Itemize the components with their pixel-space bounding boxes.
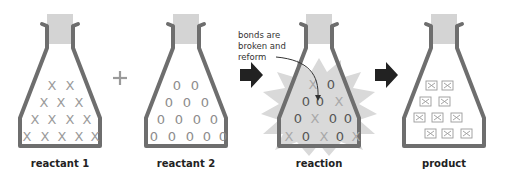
svg-text:0: 0 [193, 112, 201, 127]
svg-text:0: 0 [329, 111, 337, 126]
svg-text:0: 0 [336, 129, 344, 144]
svg-text:X: X [320, 129, 329, 144]
svg-text:X: X [41, 129, 50, 144]
svg-text:0: 0 [344, 111, 352, 126]
svg-text:X: X [40, 95, 49, 110]
annotation-line: broken and [238, 41, 308, 52]
svg-text:X: X [91, 129, 100, 144]
svg-text:0: 0 [173, 78, 181, 93]
svg-text:X: X [58, 129, 67, 144]
label-reactant-1: reactant 1 [15, 158, 105, 169]
svg-text:X: X [31, 112, 40, 127]
svg-text:X: X [75, 129, 84, 144]
svg-text:0: 0 [210, 112, 218, 127]
svg-text:X: X [48, 112, 57, 127]
svg-text:X: X [285, 129, 294, 144]
flask-product [404, 14, 484, 146]
svg-text:0: 0 [203, 129, 211, 144]
label-product: product [399, 158, 489, 169]
svg-text:0: 0 [327, 77, 335, 92]
svg-text:0: 0 [186, 129, 194, 144]
svg-text:0: 0 [219, 129, 227, 144]
svg-text:X: X [311, 111, 320, 126]
svg-text:X: X [309, 77, 318, 92]
plus-icon [113, 71, 127, 85]
svg-text:X: X [335, 94, 344, 109]
svg-text:0: 0 [294, 111, 302, 126]
svg-text:0: 0 [302, 129, 310, 144]
label-reaction: reaction [274, 158, 364, 169]
svg-text:X: X [66, 112, 75, 127]
svg-text:X: X [66, 78, 75, 93]
annotation-line: reform [238, 52, 308, 63]
chemical-reaction-diagram: XX XXX XXXX XXXXX 00 000 0000 00000 X0 0… [0, 0, 505, 182]
label-reactant-2: reactant 2 [141, 158, 231, 169]
svg-text:X: X [57, 95, 66, 110]
svg-text:0: 0 [165, 95, 173, 110]
svg-text:0: 0 [175, 112, 183, 127]
svg-text:X: X [48, 78, 57, 93]
svg-text:0: 0 [157, 112, 165, 127]
boxed-x-molecules [414, 81, 472, 138]
flask-reactant-2: 00 000 0000 00000 [146, 14, 227, 146]
annotation-line: bonds are [238, 30, 308, 41]
svg-text:0: 0 [191, 78, 199, 93]
svg-text:0: 0 [150, 129, 158, 144]
right-arrow-icon [240, 62, 263, 88]
right-arrow-icon [375, 62, 398, 88]
svg-text:X: X [83, 112, 92, 127]
svg-text:X: X [75, 95, 84, 110]
annotation-text: bonds are broken and reform [238, 30, 308, 63]
svg-text:X: X [23, 129, 32, 144]
svg-text:0: 0 [201, 95, 209, 110]
svg-text:0: 0 [183, 95, 191, 110]
flask-reactant-1: XX XXX XXXX XXXXX [20, 14, 100, 146]
svg-text:X: X [352, 129, 361, 144]
svg-text:0: 0 [168, 129, 176, 144]
svg-text:0: 0 [302, 94, 310, 109]
